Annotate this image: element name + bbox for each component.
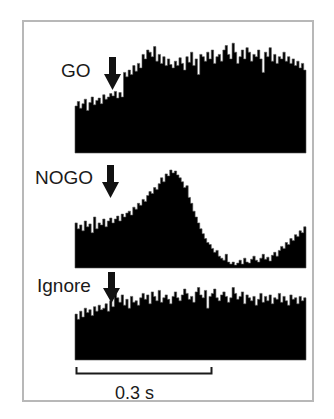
go-label: GO [61, 61, 91, 80]
scale-bar [77, 367, 212, 374]
ignore-stimulus-arrow-icon [103, 272, 120, 303]
nogo-label: NOGO [35, 168, 93, 187]
ignore-label: Ignore [37, 276, 91, 295]
go-stimulus-arrow-icon [104, 57, 121, 90]
scale-bar-label: 0.3 s [115, 384, 154, 402]
nogo-stimulus-arrow-icon [102, 165, 119, 198]
histogram-canvas [0, 0, 334, 419]
